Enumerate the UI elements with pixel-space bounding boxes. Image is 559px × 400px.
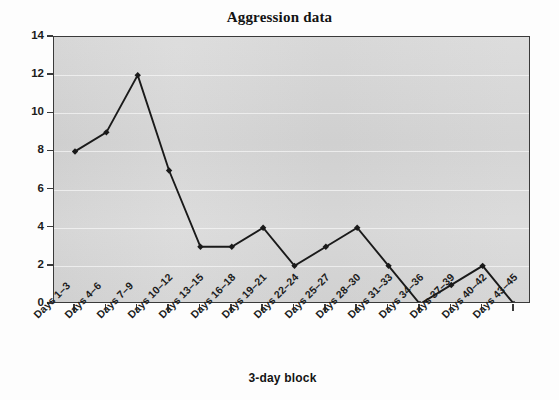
chart-title: Aggression data [0, 9, 559, 26]
y-tick-label: 2 [8, 258, 44, 270]
y-tick-label: 14 [8, 29, 44, 41]
x-tick-mark [512, 304, 514, 311]
chart-figure: Aggression data Frequency 02468101214 Da… [0, 0, 559, 400]
data-series-line [54, 37, 530, 303]
data-point-marker [197, 244, 203, 250]
data-point-marker [166, 167, 172, 173]
y-tick-label: 4 [8, 220, 44, 232]
y-tick-label: 10 [8, 105, 44, 117]
y-tick-label: 6 [8, 182, 44, 194]
y-tick-label: 8 [8, 143, 44, 155]
y-tick-label: 12 [8, 67, 44, 79]
x-axis-title: 3-day block [0, 371, 559, 385]
plot-area [53, 36, 530, 303]
x-axis-title-text: 3-day block [248, 371, 316, 385]
